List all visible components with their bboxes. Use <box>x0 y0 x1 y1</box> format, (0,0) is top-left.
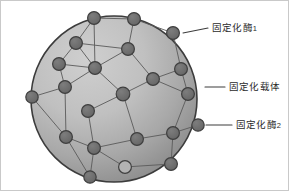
enzyme-node <box>131 133 144 146</box>
callout-immobilized-enzyme-1-text: 固定化酶1 <box>212 22 257 34</box>
enzyme-node <box>88 142 101 155</box>
callout-immobilized-enzyme-2-text: 固定化酶2 <box>236 119 281 131</box>
enzyme-node <box>70 37 83 50</box>
enzyme-node-callout1 <box>167 27 180 40</box>
callout-immobilization-carrier-text: 固定化载体 <box>229 81 280 92</box>
enzyme-node-edge <box>26 91 38 103</box>
enzyme-node <box>165 158 178 171</box>
callout-immobilized-enzyme-2-text-index: 2 <box>277 121 281 130</box>
enzyme-node-edge <box>84 171 96 183</box>
callout-immobilized-enzyme-1-text-index: 1 <box>253 24 257 33</box>
enzyme-node <box>182 88 195 101</box>
diagram-figure: 固定化酶1固定化载体固定化酶2 <box>0 0 289 191</box>
callout-immobilized-enzyme-1-text-main: 固定化酶 <box>212 22 253 33</box>
enzyme-node <box>147 73 160 86</box>
enzyme-node <box>59 81 72 94</box>
callout-immobilized-enzyme-1-leader-line <box>183 28 208 33</box>
enzyme-node <box>167 127 180 140</box>
enzyme-node-callout2 <box>192 119 204 131</box>
enzyme-node <box>88 12 101 25</box>
enzyme-node <box>53 58 66 71</box>
enzyme-node <box>122 43 135 56</box>
enzyme-node <box>82 105 95 118</box>
callout-immobilization-carrier-text-main: 固定化载体 <box>229 81 280 92</box>
enzyme-node <box>89 62 102 75</box>
enzyme-node <box>116 87 130 101</box>
enzyme-node <box>128 13 141 26</box>
enzyme-node <box>60 131 73 144</box>
enzyme-node <box>175 63 188 76</box>
enzyme-node-hollow <box>119 161 132 174</box>
callout-immobilized-enzyme-2-text-main: 固定化酶 <box>236 119 277 130</box>
